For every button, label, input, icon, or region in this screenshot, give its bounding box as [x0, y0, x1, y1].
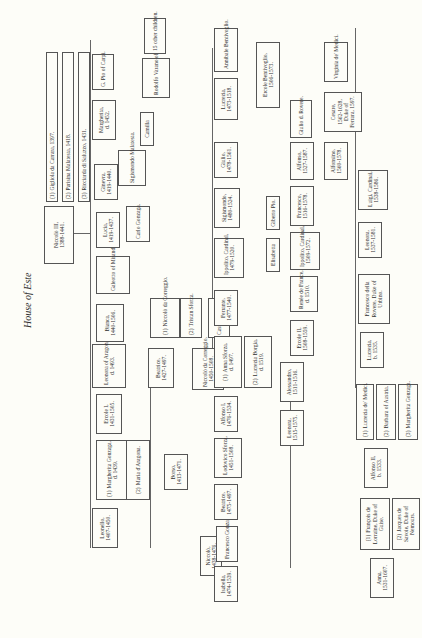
person-niccolo-iii[interactable]: Niccolò III, 1388-1441.: [44, 206, 74, 264]
person-lucia[interactable]: Lucia,1419-1437.: [96, 212, 120, 248]
person-ippolito-cardinal-1479[interactable]: Ippolito, Cardinal,1479-1520.: [214, 238, 244, 278]
spouse-annibale-bentivoglio[interactable]: Annibale Bentivoglio.: [214, 28, 238, 72]
spouse-virginia-medici[interactable]: Virginia de' Medici.: [324, 42, 348, 82]
diagram-title: House of Este: [22, 272, 33, 328]
page: House of Este Niccolò III, 1388-1441. (1…: [0, 0, 422, 638]
spouse-giberto-pio[interactable]: Giberto Pio.: [266, 196, 280, 230]
person-ippolito-cardinal-1509[interactable]: Ippolito, Cardinal,1509-1572.: [290, 232, 320, 270]
spouse-maria-daragona[interactable]: (2)Maria d'Aragona.: [126, 440, 150, 500]
spouse-renee-de-france[interactable]: Renée de France,d. 1510.: [290, 276, 318, 312]
spouse-lucrezia-borgia[interactable]: (2)Lucrezia Borgia,d. 1519.: [244, 336, 272, 388]
spouse-lodovico-sforza[interactable]: Lodovico Sforza,1451-1508.: [214, 438, 242, 478]
person-borso[interactable]: Borso,1413-1471.: [164, 454, 188, 490]
person-ferrante[interactable]: Ferrante,1477-1540.: [214, 290, 238, 326]
spouse-lucrezia-medici[interactable]: (1)Lucrezia de' Medici.: [356, 384, 374, 440]
generation-line-3b: [355, 28, 356, 388]
spouse-francois-de-lorraine[interactable]: (1)François de Lorraine, Duke of Guise.: [360, 498, 390, 550]
person-other-children[interactable]: 15 other children.: [144, 18, 166, 54]
person-lucrezia-1473[interactable]: Lucrezia,1473-1518.: [214, 78, 238, 120]
spouse-jacques-de-savoie[interactable]: (2)Jacques de Savoie, Duke of Nemours.: [392, 498, 420, 550]
spouse-barbara-austria[interactable]: (2)Barbara of Austria.: [376, 384, 396, 440]
person-leonora-1537[interactable]: Leonora,1537-1581.: [358, 222, 382, 258]
person-alessandro[interactable]: Alessandro,1511-1516.: [280, 362, 304, 402]
spouse-sigismondo-malatesta[interactable]: Sigismondo Malatesta.: [118, 150, 146, 186]
generation-line-1: [90, 40, 91, 548]
person-luigi-cardinal[interactable]: Luigi, Cardinal,1538-1586.: [358, 170, 388, 210]
person-alfonso-ii[interactable]: Alfonso II,b. 1533.: [364, 448, 388, 488]
person-leonello[interactable]: Leonello,1407-1450.: [92, 508, 118, 548]
generation-line-2: [150, 368, 151, 548]
person-bianca[interactable]: Bianca,1440-1506.: [96, 304, 124, 342]
person-cesare[interactable]: Cesare,1562-1628, Duke of Ferrara, 1597.: [324, 92, 362, 132]
person-francesco-1516[interactable]: Francesco,1516-1578.: [290, 186, 314, 226]
person-sigismondo-1480[interactable]: Sigismondo,1480-1524.: [214, 188, 240, 228]
person-ercole-ii[interactable]: Ercole II,1508-1559.: [290, 320, 314, 356]
person-beatrice-1475[interactable]: Beatrice,1475-1497.: [214, 484, 238, 520]
spouse-francesco-gonzaga[interactable]: Francesco Gonzaga.: [216, 526, 238, 562]
spouse-niccolo-da-correggio[interactable]: (1)Niccolò da Correggio.: [150, 298, 180, 338]
person-leonora-1515[interactable]: Leonora,1515-1575.: [280, 410, 304, 446]
person-anna-1531[interactable]: Anna,1531-1607.: [370, 558, 394, 598]
spouse-giulio-rovere[interactable]: Giulio d. Rovere.: [290, 100, 312, 138]
spouse-galeotto[interactable]: Galeotto of Mirandola.: [96, 256, 130, 294]
person-isabella[interactable]: Isabella,1474-1539.: [214, 566, 238, 602]
person-margherita-1452[interactable]: Margherita,d. 1452.: [92, 100, 116, 140]
spouse-anna-sforza[interactable]: (1)Anna Sforza,d. 1497.: [214, 336, 242, 388]
spouse-margherita-gonzaga-3[interactable]: (3)Margherita Gonzaga.: [398, 384, 418, 440]
spouse-tristan-sforza[interactable]: (2)Tristan Sforza.: [180, 298, 202, 338]
spouse-margherita-gonzaga[interactable]: (1)Margherita Gonzaga,d. 1439.: [96, 440, 128, 500]
person-elisabetta[interactable]: Elisabetta: [266, 238, 280, 272]
person-ginevra[interactable]: Ginevra,1419-1440.: [94, 164, 118, 200]
spouse-leonora-aragon[interactable]: Leonora of Aragon,d. 1493.: [92, 344, 126, 388]
spouse-carlo-gonzaga[interactable]: Carlo Gonzaga.: [126, 206, 150, 242]
family-tree-diagram: House of Este Niccolò III, 1388-1441. (1…: [0, 0, 422, 638]
spouse-ricciarda[interactable]: (3)Ricciarda di Saluzzo, 1431.: [78, 52, 90, 202]
person-alfonso-i[interactable]: Alfonso I,1476-1534.: [214, 396, 238, 432]
person-giulio-1478[interactable]: Giulio,1478-1561.: [214, 142, 238, 178]
person-ercole-i[interactable]: Ercole I,1431-1505.: [96, 394, 122, 434]
person-ercole-bentivoglio[interactable]: Ercole Bentivoglio,1506-1573.: [256, 42, 280, 108]
spouse-francesco-della-rovere[interactable]: Francesco della Rovere, Duke of Urbino.: [358, 274, 390, 324]
spouse-rodolfo-varano[interactable]: Rodolfo Varano of Camerino.: [142, 58, 170, 98]
connector: [76, 233, 90, 234]
spouse-gigliola[interactable]: (1)Gigliola da Carrara, 1397.: [46, 52, 58, 202]
spouse-parisina[interactable]: (2)Parisina Malatesta, 1418.: [62, 52, 74, 202]
spouse-g-pio-carpi[interactable]: G. Pio of Carpi.: [92, 54, 114, 90]
person-alfonso-1527[interactable]: Alfonso,1527-1587.: [290, 142, 314, 180]
person-alfonsino[interactable]: Alfonsino,1560-1578.: [324, 142, 348, 180]
person-camilla[interactable]: Camilla: [140, 112, 154, 146]
person-lucrezia-1535[interactable]: Lucrezia,b. 1535.: [360, 332, 384, 368]
person-beatrice-1427[interactable]: Beatrice,1427-1497.: [148, 348, 174, 388]
